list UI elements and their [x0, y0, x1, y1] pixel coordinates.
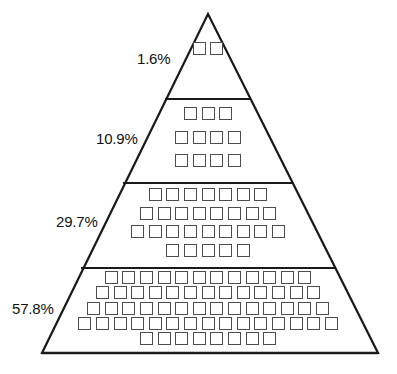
- unit-square-icon: [166, 317, 179, 330]
- unit-square-icon: [219, 317, 232, 330]
- unit-square-icon: [246, 207, 259, 220]
- unit-square-icon: [184, 317, 197, 330]
- unit-square-icon: [219, 107, 232, 120]
- unit-square-icon: [158, 271, 171, 284]
- unit-square-icon: [193, 131, 206, 144]
- unit-square-icon: [263, 332, 276, 345]
- unit-square-icon: [140, 302, 153, 315]
- unit-square-icon: [193, 154, 206, 167]
- unit-square-icon: [210, 302, 223, 315]
- unit-square-icon: [263, 302, 276, 315]
- unit-square-icon: [149, 286, 162, 299]
- unit-square-icon: [158, 332, 171, 345]
- unit-square-icon: [158, 207, 171, 220]
- unit-square-icon: [105, 271, 118, 284]
- unit-square-icon: [122, 271, 135, 284]
- unit-square-icon: [202, 188, 215, 201]
- unit-square-icon: [228, 271, 241, 284]
- tier-label-upper-middle: 10.9%: [96, 130, 138, 147]
- unit-square-icon: [140, 332, 153, 345]
- unit-square-icon: [210, 131, 223, 144]
- unit-square-icon: [298, 271, 311, 284]
- unit-square-icon: [105, 302, 118, 315]
- unit-square-icon: [131, 225, 144, 238]
- unit-square-icon: [114, 286, 127, 299]
- unit-square-icon: [281, 271, 294, 284]
- unit-square-icon: [254, 188, 267, 201]
- unit-square-icon: [149, 317, 162, 330]
- unit-square-icon: [290, 317, 303, 330]
- tier-label-lower-middle: 29.7%: [56, 213, 98, 230]
- unit-square-icon: [263, 207, 276, 220]
- unit-square-icon: [219, 286, 232, 299]
- unit-square-icon: [228, 332, 241, 345]
- unit-square-icon: [228, 154, 241, 167]
- unit-square-icon: [78, 317, 91, 330]
- unit-square-icon: [246, 302, 259, 315]
- unit-square-icon: [210, 332, 223, 345]
- unit-square-icon: [149, 225, 162, 238]
- unit-square-icon: [246, 271, 259, 284]
- unit-square-icon: [175, 207, 188, 220]
- unit-square-icon: [272, 225, 285, 238]
- unit-square-icon: [237, 188, 250, 201]
- unit-square-icon: [193, 271, 206, 284]
- unit-square-icon: [131, 317, 144, 330]
- unit-square-icon: [228, 131, 241, 144]
- unit-square-icon: [325, 317, 338, 330]
- tier-label-top: 1.6%: [137, 50, 170, 67]
- unit-square-icon: [210, 207, 223, 220]
- unit-square-icon: [246, 332, 259, 345]
- unit-square-icon: [140, 207, 153, 220]
- unit-square-icon: [290, 286, 303, 299]
- unit-square-icon: [219, 225, 232, 238]
- unit-square-icon: [87, 302, 100, 315]
- unit-square-icon: [210, 271, 223, 284]
- unit-square-icon: [237, 317, 250, 330]
- pyramid-chart-figure: 1.6% 10.9% 29.7% 57.8%: [0, 0, 397, 374]
- unit-square-icon: [281, 302, 294, 315]
- tier-label-bottom: 57.8%: [12, 300, 54, 317]
- unit-square-icon: [175, 131, 188, 144]
- unit-square-icon: [254, 317, 267, 330]
- unit-square-icon: [193, 207, 206, 220]
- unit-square-icon: [131, 286, 144, 299]
- unit-square-icon: [272, 286, 285, 299]
- unit-square-icon: [175, 332, 188, 345]
- unit-square-icon: [175, 271, 188, 284]
- unit-square-icon: [140, 271, 153, 284]
- unit-square-icon: [202, 286, 215, 299]
- unit-square-icon: [237, 225, 250, 238]
- unit-square-icon: [166, 225, 179, 238]
- unit-square-icon: [166, 188, 179, 201]
- unit-square-icon: [202, 107, 215, 120]
- unit-square-icon: [210, 154, 223, 167]
- unit-square-icon: [193, 302, 206, 315]
- unit-square-icon: [272, 317, 285, 330]
- unit-square-icon: [219, 244, 232, 257]
- unit-square-icon: [254, 225, 267, 238]
- unit-square-icon: [219, 188, 232, 201]
- unit-square-icon: [122, 302, 135, 315]
- unit-square-icon: [175, 302, 188, 315]
- unit-square-icon: [254, 286, 267, 299]
- unit-square-icon: [228, 207, 241, 220]
- unit-square-icon: [237, 244, 250, 257]
- unit-square-icon: [114, 317, 127, 330]
- unit-square-icon: [237, 286, 250, 299]
- unit-square-icon: [149, 188, 162, 201]
- unit-square-icon: [228, 302, 241, 315]
- unit-square-icon: [184, 286, 197, 299]
- unit-square-icon: [298, 302, 311, 315]
- unit-square-icon: [166, 244, 179, 257]
- unit-square-icon: [166, 286, 179, 299]
- unit-square-icon: [158, 302, 171, 315]
- unit-square-icon: [96, 317, 109, 330]
- unit-square-icon: [307, 286, 320, 299]
- unit-square-icon: [263, 271, 276, 284]
- unit-square-icon: [184, 188, 197, 201]
- unit-square-icon: [210, 42, 223, 55]
- unit-square-icon: [193, 42, 206, 55]
- unit-square-icon: [184, 244, 197, 257]
- unit-square-icon: [316, 302, 329, 315]
